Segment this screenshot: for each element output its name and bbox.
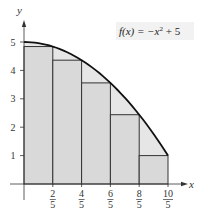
x-axis-arrow-icon bbox=[181, 182, 188, 186]
x-tick-denominator: 5 bbox=[166, 199, 171, 210]
rectangle bbox=[24, 47, 53, 184]
y-tick-label: 4 bbox=[11, 65, 16, 76]
function-label: f(x) = −x2 + 5 bbox=[119, 25, 181, 38]
riemann-sum-chart: 25456585105 12345 f(x) = −x2 + 5 y x bbox=[0, 0, 201, 214]
rectangle bbox=[110, 115, 139, 184]
rectangle bbox=[82, 83, 111, 184]
y-tick-label: 3 bbox=[11, 93, 16, 104]
x-tick-denominator: 5 bbox=[79, 199, 84, 210]
x-tick-denominator: 5 bbox=[50, 199, 55, 210]
x-tick-numerator: 10 bbox=[163, 188, 173, 199]
y-axis-ticks: 12345 bbox=[11, 37, 25, 162]
y-axis-label: y bbox=[16, 4, 22, 16]
y-tick-label: 2 bbox=[11, 122, 16, 133]
y-tick-label: 1 bbox=[11, 150, 16, 161]
x-tick-numerator: 4 bbox=[79, 188, 84, 199]
x-tick-denominator: 5 bbox=[137, 199, 142, 210]
y-tick-label: 5 bbox=[11, 37, 16, 48]
x-tick-numerator: 2 bbox=[50, 188, 55, 199]
x-tick-numerator: 6 bbox=[108, 188, 113, 199]
rectangle bbox=[53, 60, 82, 184]
x-tick-denominator: 5 bbox=[108, 199, 113, 210]
x-tick-numerator: 8 bbox=[137, 188, 142, 199]
inscribed-rectangles bbox=[24, 47, 168, 184]
y-axis-arrow-icon bbox=[22, 20, 26, 27]
x-axis-ticks: 25456585105 bbox=[50, 184, 173, 210]
x-axis-label: x bbox=[188, 178, 194, 190]
rectangle bbox=[139, 156, 168, 184]
